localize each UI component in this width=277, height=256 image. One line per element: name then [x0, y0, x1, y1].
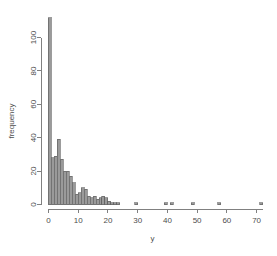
- histogram-bar: [114, 203, 117, 205]
- histogram-bar: [66, 171, 69, 204]
- x-axis-tick-label: 20: [103, 216, 112, 225]
- histogram-plot: 020406080100010203040506070yfrequency: [0, 0, 277, 256]
- histogram-bar: [81, 188, 84, 205]
- y-axis-title: frequency: [7, 103, 16, 138]
- y-axis-tick-label: 0: [29, 202, 38, 207]
- x-axis-tick-label: 40: [163, 216, 172, 225]
- x-axis-tick-label: 70: [252, 216, 261, 225]
- x-axis-tick-label: 60: [222, 216, 231, 225]
- histogram-bar: [87, 196, 90, 204]
- histogram-bar: [96, 199, 99, 204]
- y-axis-tick-label: 80: [29, 66, 38, 75]
- histogram-bar: [69, 176, 72, 204]
- histogram-figure: 020406080100010203040506070yfrequency: [0, 0, 277, 256]
- histogram-bar: [78, 193, 81, 205]
- histogram-bar: [218, 203, 221, 205]
- bar-series: [48, 18, 262, 205]
- x-axis-tick-label: 10: [74, 216, 83, 225]
- x-axis-title: y: [151, 234, 155, 243]
- histogram-bar: [108, 201, 111, 204]
- histogram-bar: [60, 159, 63, 204]
- histogram-bar: [93, 196, 96, 204]
- plot-labels: 020406080100010203040506070yfrequency: [7, 30, 262, 243]
- histogram-bar: [48, 18, 51, 205]
- histogram-bar: [75, 194, 78, 204]
- histogram-bar: [102, 196, 105, 204]
- x-axis-tick-label: 30: [133, 216, 142, 225]
- histogram-bar: [99, 198, 102, 205]
- histogram-bar: [117, 203, 120, 205]
- y-axis-tick-label: 60: [29, 99, 38, 108]
- histogram-bar: [90, 198, 93, 205]
- histogram-bar: [170, 203, 173, 205]
- histogram-bar: [135, 203, 138, 205]
- histogram-bar: [164, 203, 167, 205]
- y-axis-tick-label: 20: [29, 166, 38, 175]
- histogram-bar: [105, 198, 108, 205]
- histogram-bar: [84, 189, 87, 204]
- x-axis-tick-label: 50: [193, 216, 202, 225]
- x-axis-tick-label: 0: [46, 216, 51, 225]
- histogram-bar: [57, 139, 60, 204]
- histogram-bar: [54, 156, 57, 204]
- histogram-bar: [51, 158, 54, 205]
- y-axis-tick-label: 40: [29, 133, 38, 142]
- y-axis-tick-label: 100: [29, 30, 38, 44]
- histogram-bar: [63, 171, 66, 204]
- histogram-bar: [191, 203, 194, 205]
- histogram-bar: [260, 203, 263, 205]
- histogram-bar: [111, 203, 114, 205]
- histogram-bar: [72, 183, 75, 205]
